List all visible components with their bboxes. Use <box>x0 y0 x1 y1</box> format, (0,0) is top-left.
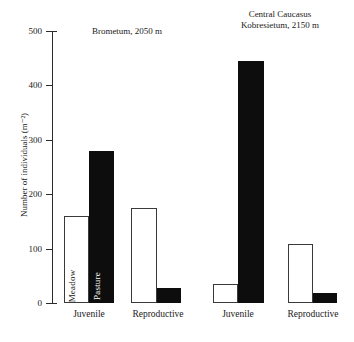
bar-right-juvenile-meadow-wrap <box>213 31 238 303</box>
panel-title-right: Central Caucasus Kobresietum, 2150 m <box>210 9 350 31</box>
bar-right-juvenile-pasture <box>238 61 264 303</box>
bar-label-pasture: Pasture <box>92 272 102 300</box>
bar-left-reproductive-pasture-wrap <box>157 31 181 303</box>
bar-left-reproductive-pasture <box>157 288 181 303</box>
bar-right-reproductive-pasture-wrap <box>313 31 337 303</box>
group-label-right-juvenile: Juvenile <box>205 309 271 319</box>
chart-figure: Brometum, 2050 m Central Caucasus Kobres… <box>0 0 354 342</box>
bar-right-reproductive-pasture <box>313 293 337 303</box>
group-label-right-reproductive: Reproductive <box>272 309 354 319</box>
bar-left-juvenile-meadow: Meadow <box>64 216 89 303</box>
plot-area: Meadow Pasture <box>0 31 354 303</box>
bar-right-juvenile-pasture-wrap <box>238 31 264 303</box>
group-label-left-juvenile: Juvenile <box>56 309 122 319</box>
bar-left-juvenile-pasture-wrap: Pasture <box>89 31 114 303</box>
bar-label-meadow: Meadow <box>67 270 77 303</box>
bar-left-juvenile-meadow-wrap: Meadow <box>64 31 89 303</box>
bar-right-juvenile-meadow <box>213 284 238 303</box>
bar-right-reproductive-meadow-wrap <box>288 31 313 303</box>
bar-left-reproductive-meadow <box>131 208 157 303</box>
bar-right-reproductive-meadow <box>288 244 313 303</box>
y-tick-mark-0 <box>52 303 57 304</box>
bar-left-juvenile-pasture: Pasture <box>89 151 114 303</box>
group-label-left-reproductive: Reproductive <box>117 309 199 319</box>
bar-left-reproductive-meadow-wrap <box>131 31 157 303</box>
